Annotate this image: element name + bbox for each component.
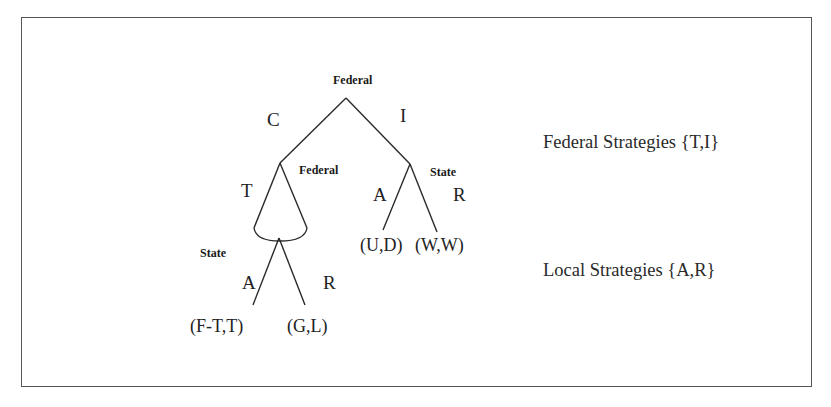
move-label-a-right: A: [373, 184, 387, 205]
game-tree: Federal Federal State State C I T A R A …: [0, 0, 831, 407]
node-label-state-right: State: [430, 165, 457, 179]
edge-state-left-accept: [253, 238, 279, 305]
local-strategies-label: Local Strategies {A,R}: [543, 260, 715, 281]
information-set-arc: [254, 228, 307, 241]
payoff-ft-t: (F-T,T): [190, 316, 243, 337]
federal-strategies-label: Federal Strategies {T,I}: [543, 132, 719, 153]
payoff-u-d: (U,D): [360, 235, 403, 256]
move-label-r-right: R: [453, 184, 466, 205]
edge-state-left-reject: [279, 238, 305, 305]
move-label-c: C: [267, 109, 280, 130]
node-label-root: Federal: [333, 73, 373, 87]
move-label-a-left: A: [242, 272, 256, 293]
payoff-w-w: (W,W): [415, 235, 464, 256]
payoff-g-l: (G,L): [287, 316, 327, 337]
edge-root-left: [280, 98, 346, 163]
node-label-state-left: State: [200, 246, 227, 260]
edge-state-right-accept: [383, 164, 410, 230]
move-label-r-left: R: [323, 272, 336, 293]
edge-federal-cone-left: [254, 163, 280, 228]
move-label-t: T: [241, 180, 253, 201]
node-label-federal-inner: Federal: [299, 163, 339, 177]
move-label-i: I: [400, 105, 406, 126]
